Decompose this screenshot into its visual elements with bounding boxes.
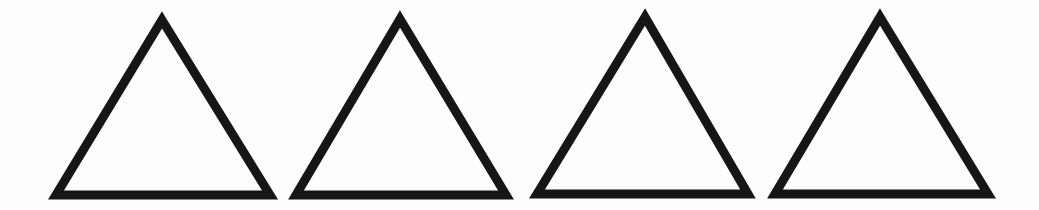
triangles-figure: [0, 0, 1039, 210]
figure-canvas: Row of four outlined triangles Four hand…: [0, 0, 1039, 210]
